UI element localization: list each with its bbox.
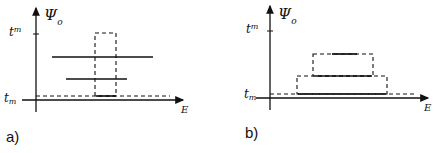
upper-tick-label: tm	[9, 25, 22, 39]
x-axis-label: E	[180, 104, 189, 115]
panel-caption: b)	[245, 124, 258, 141]
dashed-rect-lower	[297, 76, 387, 94]
dashed-rect	[95, 33, 116, 96]
x-axis-label: E	[423, 102, 432, 113]
panel-caption: a)	[6, 128, 19, 145]
upper-tick-label: tm	[246, 22, 259, 36]
panel-a: Ψo tm tm E a)	[4, 6, 189, 145]
y-axis-label: Ψo	[44, 6, 63, 27]
y-axis-label: Ψo	[278, 5, 297, 26]
lower-tick-label: tm	[4, 91, 17, 106]
panel-b: Ψo tm tm E b)	[244, 5, 432, 141]
diagram-canvas: Ψo tm tm E a) Ψo tm tm E b)	[0, 0, 441, 153]
lower-tick-label: tm	[244, 87, 257, 102]
dashed-rect-upper	[313, 54, 373, 76]
